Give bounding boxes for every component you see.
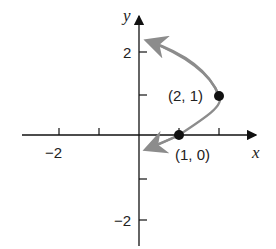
point-1-0 [174,130,184,140]
annotation-1-0: (1, 0) [175,146,210,163]
annotation-2-1: (2, 1) [168,87,203,104]
parametric-curve-plot: −2 2 −2 x y (2, 1) (1, 0) [0,0,276,249]
x-axis-label: x [251,143,260,162]
y-tick-label-neg2: −2 [114,212,131,229]
point-2-1 [214,91,224,101]
y-ticks [139,52,147,220]
x-tick-label-neg2: −2 [45,144,62,161]
y-axis-label: y [121,6,131,25]
y-tick-label-2: 2 [123,44,131,61]
